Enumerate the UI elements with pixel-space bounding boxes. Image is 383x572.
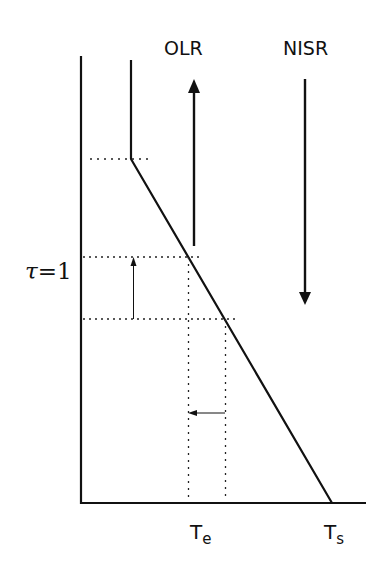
te-main: T <box>189 520 203 544</box>
ts-label: Ts <box>323 520 344 548</box>
temperature-profile-line <box>131 60 332 503</box>
te-subscript: e <box>202 530 211 548</box>
nisr-arrowhead-icon <box>299 292 311 305</box>
te-shift-arrowhead-icon <box>188 410 197 416</box>
tau-equals-one: =1 <box>38 258 72 284</box>
tau-label: τ=1 <box>25 258 72 284</box>
nisr-label: NISR <box>283 37 328 59</box>
te-label: Te <box>189 520 211 548</box>
olr-label: OLR <box>164 37 203 59</box>
greenhouse-effect-diagram: OLR NISR τ=1 Te Ts <box>0 0 383 572</box>
olr-arrowhead-icon <box>188 79 200 93</box>
emission-shift-arrowhead-icon <box>131 257 137 266</box>
ts-subscript: s <box>336 530 344 548</box>
ts-main: T <box>323 520 337 544</box>
